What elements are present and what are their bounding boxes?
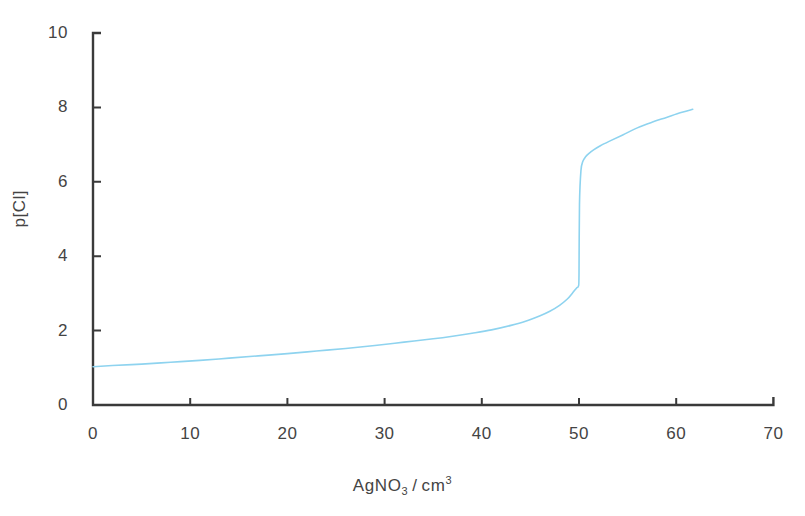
x-tick-label-50: 50: [569, 424, 589, 444]
y-tick-label-6: 6: [28, 172, 68, 192]
axis-lines: [93, 33, 773, 405]
y-tick-label-10: 10: [28, 23, 68, 43]
x-tick-label-30: 30: [375, 424, 395, 444]
data-series-line: [93, 109, 693, 366]
y-tick-label-0: 0: [28, 395, 68, 415]
x-tick-label-20: 20: [277, 424, 297, 444]
y-tick-label-4: 4: [28, 246, 68, 266]
x-tick-label-70: 70: [763, 424, 783, 444]
x-axis-title-slash: /: [408, 476, 421, 495]
y-tick-label-2: 2: [28, 321, 68, 341]
x-axis-title: AgNO3/cm3: [0, 474, 805, 497]
x-tick-label-40: 40: [472, 424, 492, 444]
x-tick-label-0: 0: [88, 424, 98, 444]
y-tick-label-8: 8: [28, 97, 68, 117]
y-axis-title: p[Cl]: [10, 190, 40, 227]
x-axis-title-unit: cm: [422, 476, 446, 495]
x-tick-label-10: 10: [180, 424, 200, 444]
x-tick-label-60: 60: [666, 424, 686, 444]
x-axis-title-superscript: 3: [445, 474, 452, 486]
chart-figure: 010203040506070 0246810 AgNO3/cm3 p[Cl]: [0, 0, 805, 516]
x-axis-title-lead: AgNO: [353, 476, 402, 495]
tick-marks: [93, 107, 676, 405]
